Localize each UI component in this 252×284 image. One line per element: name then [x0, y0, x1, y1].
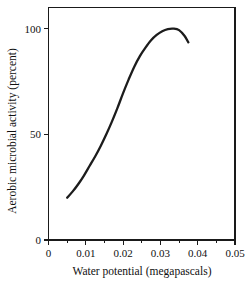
- y-axis-tick-labels: 050100: [25, 23, 42, 246]
- plot-svg: 00.010.020.030.040.05 050100 Water poten…: [0, 0, 252, 284]
- y-axis-title: Aerobic microbial activity (percent): [6, 48, 19, 214]
- x-tick-label: 0.04: [188, 247, 208, 259]
- chart-figure: 00.010.020.030.040.05 050100 Water poten…: [0, 0, 252, 284]
- x-tick-label: 0.02: [113, 247, 132, 259]
- x-axis-title: Water potential (megapascals): [73, 265, 212, 278]
- plot-frame: [49, 8, 236, 241]
- x-tick-label: 0: [46, 247, 52, 259]
- x-axis-tick-labels: 00.010.020.030.040.05: [46, 247, 245, 259]
- y-tick-label: 50: [30, 128, 42, 140]
- x-tick-label: 0.05: [225, 247, 245, 259]
- y-tick-label: 0: [36, 234, 42, 246]
- x-tick-label: 0.01: [76, 247, 95, 259]
- y-tick-label: 100: [25, 23, 42, 35]
- frame-border: [49, 8, 236, 241]
- data-curve: [67, 29, 188, 198]
- x-tick-label: 0.03: [151, 247, 171, 259]
- y-axis-major-ticks: [44, 29, 49, 240]
